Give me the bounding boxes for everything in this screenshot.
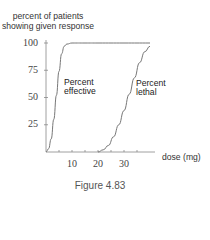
label-percent-effective: Percent effective	[64, 78, 96, 96]
effective-curve	[46, 43, 150, 152]
y-tick-75: 75	[12, 64, 38, 75]
x-tick-20: 20	[88, 158, 108, 169]
x-tick-10: 10	[62, 158, 82, 169]
x-axis-label: dose (mg)	[162, 152, 201, 162]
lethal-curve	[98, 46, 150, 152]
label-line: effective	[64, 87, 96, 96]
x-tick-30: 30	[114, 158, 134, 169]
figure-caption: Figure 4.83	[60, 180, 140, 191]
label-percent-lethal: Percent lethal	[136, 79, 166, 97]
y-tick-25: 25	[12, 118, 38, 129]
y-tick-50: 50	[12, 91, 38, 102]
y-tick-100: 100	[12, 37, 38, 48]
label-line: lethal	[136, 88, 166, 97]
